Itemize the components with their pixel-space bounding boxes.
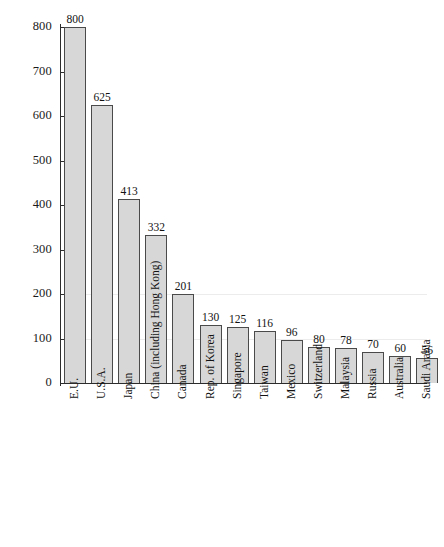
bar (91, 105, 113, 383)
y-axis-tick-label-text: 700 (12, 65, 52, 78)
x-axis-category-label: Australia (393, 357, 405, 399)
y-axis-tick-label-text: 800 (12, 20, 52, 33)
bar-value-label: 332 (136, 221, 176, 233)
x-axis-category-label: Malaysia (339, 357, 351, 399)
y-axis-tick-label: 0 (6, 376, 52, 389)
y-axis-tick-label-text: 100 (12, 332, 52, 345)
bar (64, 27, 86, 383)
x-axis-category-label: Switzerland (312, 344, 324, 399)
y-axis-tick-label-text: 500 (12, 154, 52, 167)
x-axis-category-label: Taiwan (258, 365, 270, 399)
bar-value-label: 625 (82, 91, 122, 103)
x-axis-category-label: Russia (366, 368, 378, 399)
x-axis-category-label: E.U. (68, 378, 80, 399)
y-axis-tick-label-text: 300 (12, 243, 52, 256)
y-axis-tick-label: 500 (6, 154, 52, 167)
gridline (61, 294, 427, 295)
bar-value-label: 413 (109, 185, 149, 197)
x-axis-category-label: Rep. of Korea (204, 334, 216, 399)
x-axis-category-label: Singapore (231, 352, 243, 399)
x-axis-category-label: Mexico (285, 364, 297, 399)
y-axis-tick-label-text: 0 (12, 376, 52, 389)
y-axis-tick-label: 800 (6, 20, 52, 33)
y-axis-tick-label: 300 (6, 243, 52, 256)
y-axis-tick-label: 600 (6, 109, 52, 122)
y-axis-tick-label: 100 (6, 332, 52, 345)
bar-value-label: 201 (163, 280, 203, 292)
x-axis-category-label: Japan (122, 373, 134, 399)
scan-bleed-artifact (0, 520, 444, 538)
y-axis-tick-label-text: 400 (12, 198, 52, 211)
y-axis-tick-label-text: 200 (12, 287, 52, 300)
y-axis-tick-label: 200 (6, 287, 52, 300)
bar-value-label: 800 (55, 13, 95, 25)
x-axis-category-label: U.S.A. (95, 367, 107, 399)
y-axis-tick-label-text: 600 (12, 109, 52, 122)
y-axis-tick-label: 700 (6, 65, 52, 78)
y-axis-tick-label: 400 (6, 198, 52, 211)
bar-chart: 0100200300400500600700800 800E.U.625U.S.… (0, 0, 444, 547)
x-axis-category-label: Canada (176, 365, 188, 399)
y-axis-tick (61, 383, 67, 384)
x-axis-category-label: Saudi Arabia (420, 339, 432, 399)
x-axis-category-label: China (including Hong Kong) (149, 261, 161, 399)
